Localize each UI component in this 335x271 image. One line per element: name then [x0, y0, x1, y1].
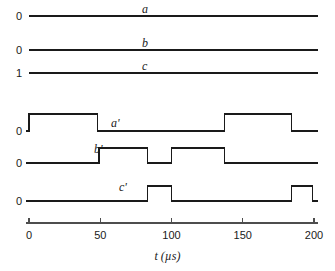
y-level-label-b: 0: [6, 45, 22, 56]
x-tick-label-100: 100: [155, 230, 189, 241]
x-tick-label-50: 50: [83, 230, 117, 241]
waveform-c_prime: [26, 186, 318, 201]
waveform-a_prime: [26, 114, 318, 131]
x-tick-label-150: 150: [226, 230, 260, 241]
y-level-label-c_prime: 0: [6, 196, 22, 207]
x-axis-title: t (µs): [0, 250, 335, 262]
trace-label-a: a: [142, 3, 148, 15]
timing-diagram-figure: 0a0b1c0a'0b'0c'050100150200 t (µs): [0, 0, 335, 271]
x-tick-label-0: 0: [12, 230, 46, 241]
trace-label-a_prime: a': [111, 117, 120, 129]
y-level-label-a: 0: [6, 11, 22, 22]
x-tick-label-200: 200: [297, 230, 331, 241]
trace-label-b_prime: b': [94, 143, 103, 155]
y-level-label-c: 1: [6, 68, 22, 79]
trace-label-c_prime: c': [119, 181, 127, 193]
trace-label-b: b: [142, 37, 148, 49]
y-level-label-a_prime: 0: [6, 126, 22, 137]
trace-label-c: c: [142, 60, 147, 72]
y-level-label-b_prime: 0: [6, 158, 22, 169]
waveform-b_prime: [26, 148, 318, 163]
